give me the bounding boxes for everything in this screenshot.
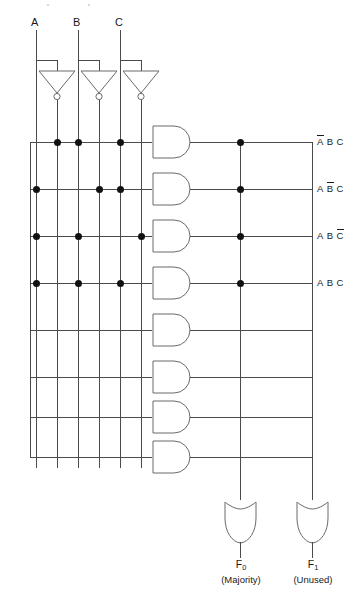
or-dot-f0-r2 [237,186,244,193]
term-2-c: C [337,183,344,194]
and-row-7 [30,417,152,418]
and-out-2 [190,189,313,190]
rail-grid-left-edge [30,142,31,458]
and-dot-r1-b [75,139,82,146]
term-label-1: ABC [317,136,344,147]
and-out-3 [190,236,313,237]
term-label-2: ABC [317,183,344,194]
input-label-a: A [31,16,38,28]
term-4-b: B [327,277,334,288]
rail-a-bar [57,100,58,468]
and-dot-r2-a [33,186,40,193]
term-4-a: A [317,277,324,288]
or-dot-f0-r1 [237,139,244,146]
and-out-5 [190,330,313,331]
and-dot-r3-cbar [138,233,145,240]
and-row-5 [30,330,152,331]
output-f1-sub: 1 [314,563,318,572]
inverter-a [38,70,76,102]
and-out-6 [190,377,313,378]
and-dot-r2-bbar [96,186,103,193]
term-4-c: C [337,277,344,288]
or-gate-f0-output-stem [240,542,241,558]
or-gate-f1 [296,500,329,544]
term-2-b-bar: B [327,183,334,194]
or-bus-f1 [312,142,313,500]
or-gate-f0 [224,500,257,544]
and-out-4 [190,283,313,284]
input-label-c: C [115,16,123,28]
output-f0-sub: 0 [242,563,246,572]
term-3-b: B [327,230,334,241]
and-dot-r3-b [75,233,82,240]
and-row-6 [30,377,152,378]
or-gate-f1-output-stem [312,542,313,558]
input-label-b: B [73,16,80,28]
and-row-2 [30,189,152,190]
or-dot-f0-r4 [237,280,244,287]
inverter-b [80,70,118,102]
input-line-b [78,30,79,468]
input-line-a [36,30,37,468]
input-line-c [120,30,121,468]
and-row-8 [30,457,152,458]
and-row-4 [30,283,152,284]
rail-b-bar [99,100,100,468]
or-bus-f0 [240,142,241,500]
or-dot-f0-r3 [237,233,244,240]
and-dot-r1-abar [54,139,61,146]
term-1-b: B [327,136,334,147]
rail-c-bar [141,100,142,468]
term-1-c: C [337,136,344,147]
inverter-b-tap [78,60,100,61]
output-f0-label: F0 [228,558,254,572]
inverter-c-tap [120,60,142,61]
and-out-8 [190,457,313,458]
and-dot-r3-a [33,233,40,240]
output-f0-note: (Majority) [212,574,270,585]
and-dot-r4-c [117,280,124,287]
term-2-a: A [317,183,324,194]
term-label-3: ABC [317,230,344,241]
and-row-3 [30,236,152,237]
inverter-a-tap [36,60,58,61]
and-dot-r4-a [33,280,40,287]
term-1-a-bar: A [317,136,324,147]
scan-speck [88,4,90,6]
term-3-a: A [317,230,324,241]
and-row-1 [30,142,152,143]
output-f1-label: F1 [300,558,326,572]
term-3-c-bar: C [337,230,344,241]
and-dot-r1-c [117,139,124,146]
output-f1-note: (Unused) [284,574,342,585]
circuit-diagram: A B C [0,0,359,593]
scan-speck [47,4,49,6]
and-out-1 [190,142,313,143]
and-dot-r4-b [75,280,82,287]
term-label-4: ABC [317,277,344,288]
inverter-c [122,70,160,102]
and-out-7 [190,417,313,418]
and-dot-r2-c [117,186,124,193]
